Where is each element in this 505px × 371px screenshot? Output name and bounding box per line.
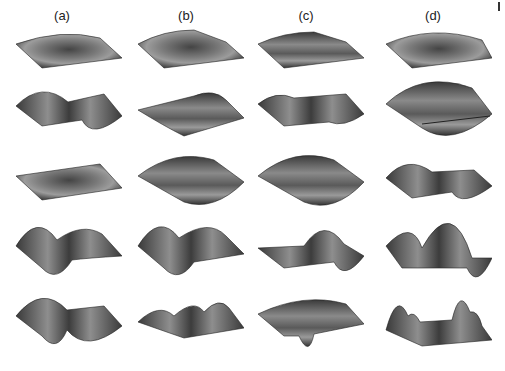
mode-plot-c1 [254, 24, 364, 90]
mode-plot-b2 [134, 86, 244, 152]
mode-plot-b4 [134, 222, 244, 288]
mode-plot-a2 [12, 86, 122, 152]
mode-plot-a4 [12, 222, 122, 288]
column-label-d: (d) [413, 8, 453, 23]
column-label-b: (b) [166, 8, 206, 23]
column-label-a: (a) [42, 8, 82, 23]
mode-plot-d3 [382, 156, 492, 222]
mode-plot-a5 [12, 294, 122, 360]
mode-plot-b1 [134, 24, 244, 90]
mode-plot-d2 [382, 80, 492, 146]
mode-plot-b3 [134, 152, 244, 218]
page-edge-mark [498, 2, 500, 11]
mode-plot-c4 [254, 222, 364, 288]
mode-plot-c3 [254, 152, 364, 218]
mode-plot-d4 [382, 218, 492, 284]
column-label-c: (c) [286, 8, 326, 23]
mode-plot-b5 [134, 294, 244, 360]
mode-plot-a3 [12, 156, 122, 222]
mode-plot-c2 [254, 86, 364, 152]
mode-plot-c5 [254, 294, 364, 360]
mode-plot-d5 [382, 290, 492, 356]
mode-plot-a1 [12, 24, 122, 90]
